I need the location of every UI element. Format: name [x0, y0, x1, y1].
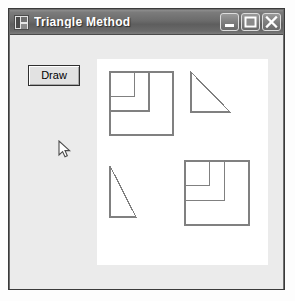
narrow-triangle-bottom-left	[110, 166, 136, 217]
recursive-squares-bottom-right-level-1	[185, 161, 225, 201]
mouse-pointer-icon	[58, 140, 72, 159]
recursive-squares-bottom-right-level-0	[185, 161, 249, 225]
maximize-icon[interactable]	[241, 13, 260, 31]
desktop-background: Triangle Method	[0, 0, 295, 301]
application-window-icon	[14, 15, 29, 30]
recursive-squares-top-left-level-2	[110, 72, 134, 96]
recursive-squares-top-left-level-0	[110, 72, 173, 135]
window-controls	[220, 13, 281, 31]
application-window: Triangle Method	[8, 8, 285, 290]
drawing-canvas[interactable]	[97, 59, 268, 265]
recursive-squares-bottom-right-level-2	[185, 161, 210, 186]
right-triangle-top-right	[191, 72, 230, 112]
draw-button[interactable]: Draw	[28, 65, 80, 86]
window-title: Triangle Method	[34, 16, 220, 28]
minimize-icon[interactable]	[220, 13, 239, 31]
recursive-squares-top-left-level-1	[110, 72, 149, 111]
form-client-area: Draw	[10, 35, 283, 289]
page-caption	[6, 291, 236, 301]
close-icon[interactable]	[262, 13, 281, 31]
title-bar[interactable]: Triangle Method	[10, 10, 283, 35]
